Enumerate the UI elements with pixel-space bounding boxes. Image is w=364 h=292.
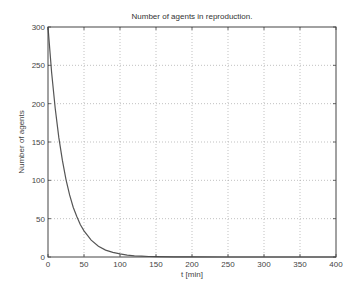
chart-title: Number of agents in reproduction. <box>132 12 253 21</box>
y-tick-label: 100 <box>32 176 46 185</box>
grid-lines <box>48 27 336 257</box>
y-tick-label: 150 <box>32 138 46 147</box>
y-tick-label: 300 <box>32 23 46 32</box>
y-tick-label: 0 <box>41 253 46 262</box>
y-tick-label: 50 <box>36 215 45 224</box>
x-tick-label: 0 <box>46 260 51 269</box>
y-tick-label: 200 <box>32 100 46 109</box>
axis-ticks: 0501001502002503003504000501001502002503… <box>32 23 344 269</box>
x-tick-label: 400 <box>329 260 343 269</box>
x-tick-label: 100 <box>113 260 127 269</box>
x-axis-label: t [min] <box>181 270 203 279</box>
y-axis-label: Number of agents <box>17 110 26 174</box>
x-tick-label: 300 <box>257 260 271 269</box>
chart: 0501001502002503003504000501001502002503… <box>0 0 364 292</box>
x-tick-label: 350 <box>293 260 307 269</box>
x-tick-label: 150 <box>149 260 163 269</box>
x-tick-label: 250 <box>221 260 235 269</box>
x-tick-label: 50 <box>80 260 89 269</box>
y-tick-label: 250 <box>32 61 46 70</box>
x-tick-label: 200 <box>185 260 199 269</box>
